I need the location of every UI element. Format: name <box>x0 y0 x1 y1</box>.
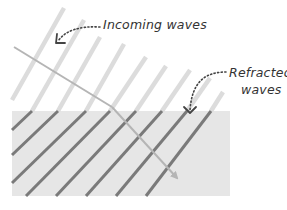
incoming-waves-label: Incoming waves <box>103 17 207 32</box>
incoming-wavefront <box>12 8 64 100</box>
incoming-wavefront <box>211 92 223 111</box>
refracted-waves-label: Refracted <box>229 65 287 80</box>
incoming-wavefront <box>162 70 190 111</box>
incoming-wavefront <box>136 66 166 111</box>
refracted-waves-label-line2: waves <box>241 82 281 97</box>
incoming-wavefront <box>32 20 84 111</box>
